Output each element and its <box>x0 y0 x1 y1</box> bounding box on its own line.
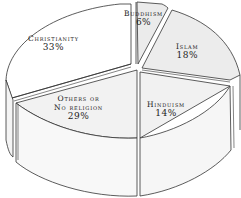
label-others: Others or no religion 29% <box>54 94 103 121</box>
label-others-line1: Others or <box>54 94 103 103</box>
label-buddhism: Buddhism 6% <box>124 9 163 27</box>
label-islam-pct: 18% <box>176 51 198 60</box>
pie-chart <box>0 0 241 198</box>
label-christianity-pct: 33% <box>28 43 79 52</box>
label-islam: Islam 18% <box>176 42 198 60</box>
label-buddhism-pct: 6% <box>124 18 163 27</box>
label-hinduism-pct: 14% <box>147 109 185 118</box>
label-christianity: Christianity 33% <box>28 34 79 52</box>
label-others-pct: 29% <box>54 112 103 121</box>
slice-hinduism <box>140 72 234 196</box>
label-hinduism: Hinduism 14% <box>147 100 185 118</box>
